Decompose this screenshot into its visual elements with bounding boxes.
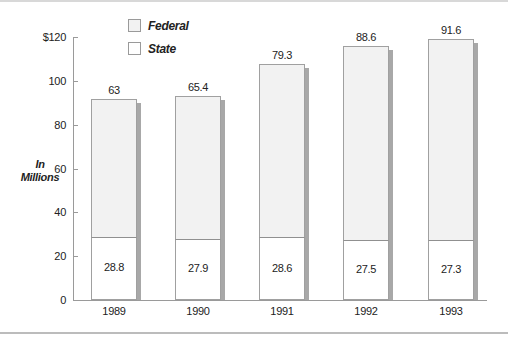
y-tick (73, 37, 78, 38)
bar-federal-1992 (343, 46, 389, 241)
state-value-label: 28.6 (259, 262, 305, 274)
state-value-label: 27.5 (343, 263, 389, 275)
x-category-label: 1989 (91, 305, 137, 317)
bar-federal-1993 (428, 39, 474, 241)
bottom-rule (0, 332, 508, 334)
bar-shadow (137, 103, 141, 300)
y-tick-label: 40 (54, 206, 66, 218)
legend-label-state: State (148, 42, 176, 56)
y-tick-label: 100 (49, 75, 66, 87)
bar-shadow (221, 100, 225, 300)
federal-value-label: 65.4 (175, 81, 221, 93)
legend: Federal State (128, 14, 189, 60)
bar-federal-1989 (91, 99, 137, 238)
y-tick (73, 212, 78, 213)
federal-value-label: 63 (91, 84, 137, 96)
state-value-label: 28.8 (91, 261, 137, 273)
state-value-label: 27.3 (428, 263, 474, 275)
x-axis (73, 300, 487, 301)
federal-value-label: 88.6 (343, 31, 389, 43)
federal-swatch (128, 19, 141, 32)
bar-federal-1991 (259, 64, 305, 239)
state-value-label: 27.9 (175, 262, 221, 274)
legend-item-federal: Federal (128, 14, 189, 37)
y-tick (73, 125, 78, 126)
bar-federal-1990 (175, 96, 221, 240)
x-category-label: 1993 (428, 305, 474, 317)
y-tick (73, 300, 78, 301)
federal-value-label: 79.3 (259, 49, 305, 61)
x-category-label: 1991 (259, 305, 305, 317)
y-tick (73, 256, 78, 257)
state-swatch (128, 42, 141, 55)
y-tick-label: 0 (60, 294, 66, 306)
bar-shadow (389, 50, 393, 300)
bar-shadow (474, 43, 478, 300)
federal-value-label: 91.6 (428, 24, 474, 36)
y-tick (73, 169, 78, 170)
y-tick-label: $120 (43, 31, 66, 43)
legend-item-state: State (128, 37, 189, 60)
x-category-label: 1992 (343, 305, 389, 317)
y-tick-label: 60 (54, 163, 66, 175)
y-tick (73, 81, 78, 82)
legend-label-federal: Federal (148, 19, 189, 33)
y-tick-label: 20 (54, 250, 66, 262)
bar-shadow (305, 68, 309, 300)
y-tick-label: 80 (54, 119, 66, 131)
top-rule (0, 0, 508, 2)
x-category-label: 1990 (175, 305, 221, 317)
